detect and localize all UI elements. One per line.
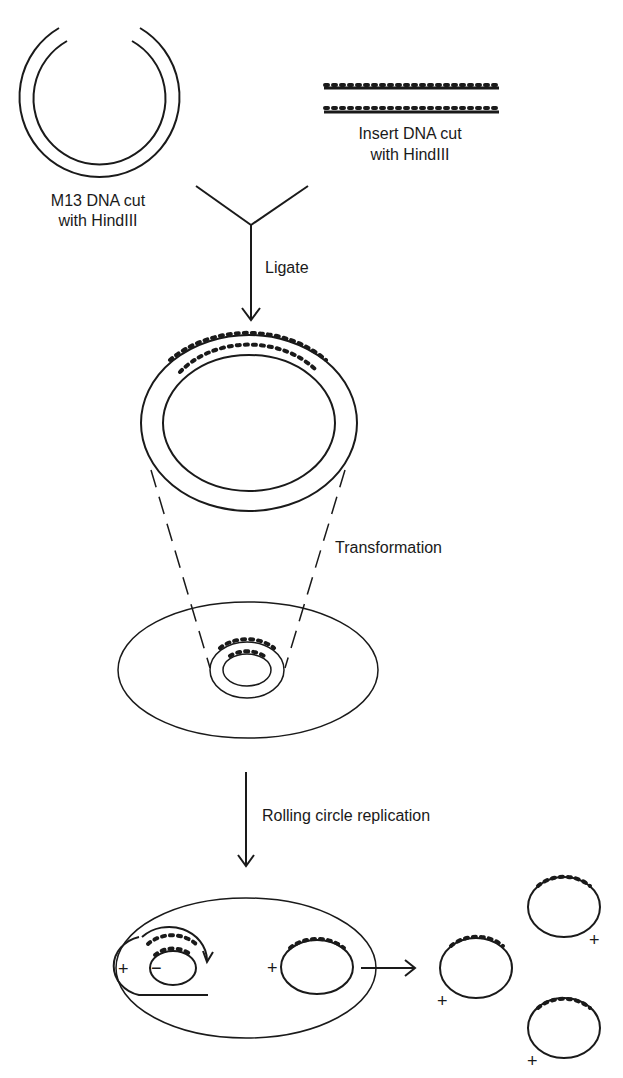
m13-vector-cut (20, 28, 180, 177)
replication-arrow (238, 772, 254, 866)
plus-sign: + (267, 958, 278, 978)
replicating-cell: + − + (114, 898, 415, 1038)
minus-sign: − (151, 958, 162, 978)
m13-label-line2: with HindIII (57, 212, 137, 229)
plus-sign: + (589, 930, 600, 950)
ligate-label: Ligate (265, 259, 309, 276)
plus-sign: + (118, 959, 129, 979)
transformation-label: Transformation (335, 539, 442, 556)
recombinant-m13 (141, 333, 357, 511)
released-phage-1: + (437, 937, 512, 1011)
insert-label-line1: Insert DNA cut (358, 125, 462, 142)
m13-cloning-diagram: M13 DNA cut with HindIII Insert DNA cut … (0, 0, 623, 1078)
insert-label-line2: with HindIII (369, 146, 449, 163)
m13-label-line1: M13 DNA cut (51, 192, 146, 209)
host-cell (118, 602, 378, 738)
insert-dna (324, 85, 499, 112)
plus-sign: + (437, 991, 448, 1011)
plus-sign: + (527, 1051, 538, 1071)
replication-label: Rolling circle replication (262, 807, 430, 824)
released-phage-2: + (528, 877, 600, 950)
ligate-arrow (196, 186, 308, 320)
released-phage-3: + (527, 998, 600, 1071)
transformation-funnel (151, 470, 345, 668)
